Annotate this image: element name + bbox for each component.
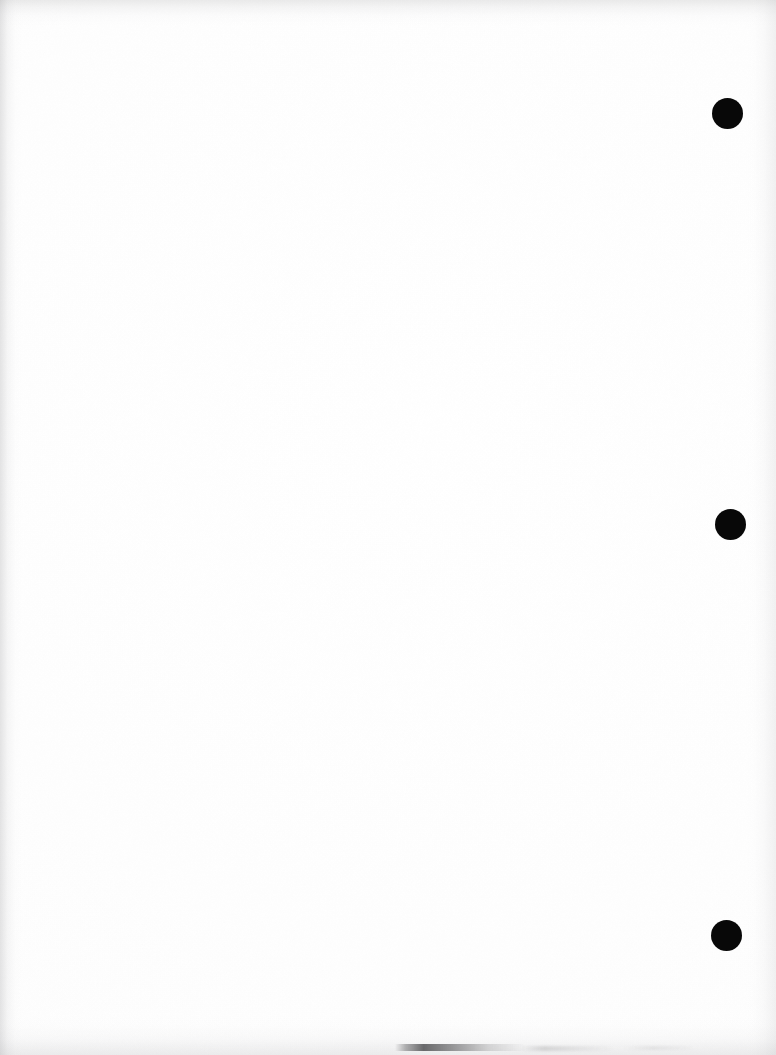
page-mark-top (712, 98, 743, 129)
page-mark-bottom (711, 920, 742, 951)
page-mark-middle (715, 509, 746, 540)
scanned-page (0, 0, 776, 1055)
paper-surface (0, 0, 776, 1055)
